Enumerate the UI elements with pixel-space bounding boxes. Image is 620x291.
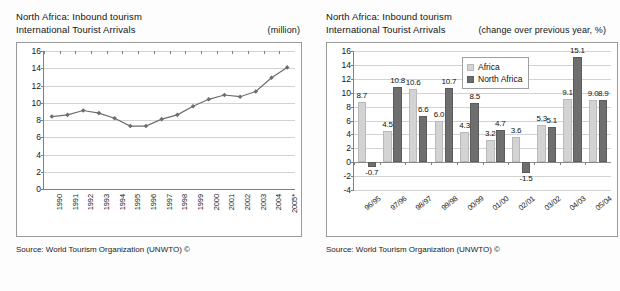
right-chart-bar-value-label: -0.7	[365, 168, 378, 177]
right-chart-bar-value-label: 4.5	[382, 120, 393, 129]
left-chart-x-tick-label: 1992	[86, 194, 95, 210]
left-chart-x-tick-mark	[201, 51, 202, 54]
right-chart-y-tick-mark	[351, 148, 354, 149]
left-chart-x-tick-mark	[75, 51, 76, 54]
right-chart-frame: -4-202468101214168.74.510.66.04.33.23.65…	[326, 42, 618, 237]
left-chart-y-tick-label: 14	[32, 63, 41, 73]
left-chart-x-tick-label: 1991	[71, 194, 80, 210]
right-chart-y-tick-mark	[351, 107, 354, 108]
left-chart-x-tick-mark	[170, 51, 171, 54]
left-chart-title-line1: North Africa: Inbound tourism	[16, 10, 302, 23]
right-chart-x-tick-mark	[483, 162, 484, 165]
right-chart-bar-value-label: 5.3	[536, 114, 547, 123]
left-chart-data-point	[238, 94, 243, 99]
right-chart-x-tick-mark	[585, 162, 586, 165]
right-chart-y-tick-mark	[351, 65, 354, 66]
left-chart-x-tick-mark	[217, 51, 218, 54]
right-chart-bar	[470, 103, 478, 162]
right-chart-title-line2: International Tourist Arrivals	[326, 23, 446, 37]
right-chart-bar-value-label: 6.6	[418, 105, 429, 114]
left-chart-data-point	[222, 93, 227, 98]
right-chart-x-tick-mark	[508, 162, 509, 165]
left-chart-x-tick-mark	[91, 51, 92, 54]
right-chart-legend-item: Africa	[467, 61, 522, 73]
right-chart-title-line1: North Africa: Inbound tourism	[326, 10, 612, 23]
right-chart-bar	[435, 121, 443, 163]
right-chart-bar	[358, 102, 366, 162]
right-chart-y-tick-mark	[351, 51, 354, 52]
left-chart-y-tick-label: 12	[32, 81, 41, 91]
right-chart-bar	[368, 162, 376, 167]
left-chart-x-tick-mark	[60, 51, 61, 54]
left-chart-x-tick-mark	[138, 51, 139, 54]
right-chart-y-tick-mark	[351, 121, 354, 122]
left-chart-data-point	[50, 114, 55, 119]
right-chart-y-tick-mark	[351, 79, 354, 80]
left-chart-x-tick-label: 1993	[102, 194, 111, 210]
right-chart-bar	[548, 127, 556, 162]
left-chart-x-tick-label: 1995	[133, 194, 142, 210]
left-chart-line-series	[44, 51, 295, 189]
left-chart-x-tick-label: 1997	[165, 194, 174, 210]
right-chart-legend-label: Africa	[478, 61, 500, 73]
left-chart-y-tick-mark	[41, 189, 44, 190]
right-chart-y-tick-label: 14	[342, 60, 351, 70]
left-chart-data-point	[159, 117, 164, 122]
right-chart-bar-value-label: 8.5	[469, 92, 480, 101]
right-chart-bar-value-label: 5.1	[546, 116, 557, 125]
right-chart-bar-value-label: 9.1	[562, 88, 573, 97]
right-chart-bar-value-label: 10.6	[406, 78, 421, 87]
right-chart-x-tick-label: 00/99	[465, 194, 485, 212]
right-chart-bar-value-label: 10.7	[442, 77, 457, 86]
right-chart-bar	[496, 130, 504, 163]
right-chart-bar-value-label: 8.9	[598, 89, 609, 98]
left-chart-x-tick-mark	[185, 51, 186, 54]
left-chart-x-tick-label: 1998	[180, 194, 189, 210]
right-chart-x-tick-mark	[354, 162, 355, 165]
right-chart-x-tick-mark	[534, 162, 535, 165]
right-chart-bar-value-label: 6.0	[434, 110, 445, 119]
left-chart-x-tick-label: 1990	[55, 194, 64, 210]
right-chart-y-tick-label: 16	[342, 46, 351, 56]
left-chart-data-point	[65, 113, 70, 118]
left-chart-x-tick-mark	[279, 51, 280, 54]
right-chart-bar	[589, 100, 597, 163]
left-chart-x-tick-mark	[248, 51, 249, 54]
right-chart-x-tick-mark	[380, 162, 381, 165]
right-chart-x-tick-label: 03/02	[542, 194, 562, 212]
right-chart-y-tick-mark	[351, 93, 354, 94]
left-chart-x-tick-mark	[44, 51, 45, 54]
right-chart-x-tick-mark	[457, 162, 458, 165]
left-chart-x-tick-label: 1996	[149, 194, 158, 210]
left-chart-y-tick-label: 16	[32, 46, 41, 56]
left-chart-x-tick-mark	[264, 51, 265, 54]
right-chart-x-tick-label: 05/04	[594, 194, 614, 212]
dual-chart-page: North Africa: Inbound tourism Internatio…	[0, 0, 620, 291]
right-chart-legend-label: North Africa	[478, 73, 522, 85]
left-chart-x-tick-mark	[154, 51, 155, 54]
right-chart-legend-item: North Africa	[467, 73, 522, 85]
left-chart-x-tick-label: 2001	[227, 194, 236, 210]
left-chart-panel: North Africa: Inbound tourism Internatio…	[0, 0, 310, 291]
left-chart-subtitle-row: International Tourist Arrivals (million)	[16, 23, 302, 37]
legend-swatch-icon	[467, 76, 474, 83]
right-chart-bar	[486, 140, 494, 162]
right-chart-y-tick-label: 10	[342, 88, 351, 98]
right-chart-x-tick-label: 96/95	[362, 194, 382, 212]
right-chart-bar-value-label: 3.2	[485, 129, 496, 138]
right-chart-x-tick-label: 98/97	[414, 194, 434, 212]
right-chart-y-tick-label: 12	[342, 74, 351, 84]
left-chart-data-point	[128, 124, 133, 129]
left-chart-data-point	[81, 108, 86, 113]
left-chart-x-tick-mark	[232, 51, 233, 54]
right-chart-bar	[563, 99, 571, 162]
left-chart-data-point	[144, 124, 149, 129]
right-chart-bar-value-label: 3.6	[511, 126, 522, 135]
left-chart-source: Source: World Tourism Organization (UNWT…	[16, 245, 302, 254]
left-chart-data-point	[112, 116, 117, 121]
right-chart-bar-value-label: 4.7	[495, 119, 506, 128]
right-chart-x-tick-mark	[560, 162, 561, 165]
left-chart-frame: 0246810121416199019911992199319941995199…	[16, 42, 302, 237]
right-chart-y-tick-label: -2	[343, 171, 351, 181]
right-chart-source: Source: World Tourism Organization (UNWT…	[326, 245, 612, 254]
